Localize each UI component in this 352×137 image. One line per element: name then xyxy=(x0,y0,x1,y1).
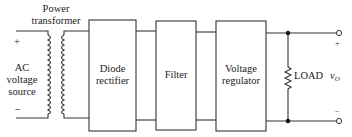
rectifier-label: Diode rectifier xyxy=(89,63,136,87)
source-plus: + xyxy=(14,36,20,48)
rectifier-label-line1: Diode xyxy=(89,63,136,75)
rectifier-label-line2: rectifier xyxy=(89,75,136,87)
source-label-line2: voltage xyxy=(2,74,42,86)
junction-top xyxy=(286,31,290,35)
transformer-label: Power transformer xyxy=(26,3,86,27)
load-resistor xyxy=(285,33,291,121)
filter-label-line1: Filter xyxy=(156,69,196,81)
output-voltage-subscript: O xyxy=(335,75,340,83)
regulator-label-line1: Voltage xyxy=(216,63,266,75)
source-minus: − xyxy=(15,104,21,116)
primary-coil xyxy=(48,35,51,114)
source-label: AC voltage source xyxy=(2,62,42,98)
regulator-label-line2: regulator xyxy=(216,75,266,87)
output-voltage-label: vO xyxy=(330,70,340,85)
regulator-label: Voltage regulator xyxy=(216,63,266,87)
source-top-wire xyxy=(16,31,48,35)
junction-bottom xyxy=(286,119,290,123)
secondary-top-wire xyxy=(64,31,89,35)
secondary-coil xyxy=(62,35,65,114)
output-plus: + xyxy=(335,38,340,50)
source-label-line3: source xyxy=(2,86,42,98)
filter-label: Filter xyxy=(156,69,196,81)
source-label-line1: AC xyxy=(2,62,42,74)
secondary-bottom-wire xyxy=(64,114,89,118)
transformer-label-line1: Power xyxy=(26,3,86,15)
output-terminal-plus xyxy=(336,30,341,35)
output-minus: − xyxy=(335,106,340,118)
load-label: LOAD xyxy=(294,70,323,82)
output-terminal-minus xyxy=(336,118,341,123)
transformer-label-line2: transformer xyxy=(26,15,86,27)
